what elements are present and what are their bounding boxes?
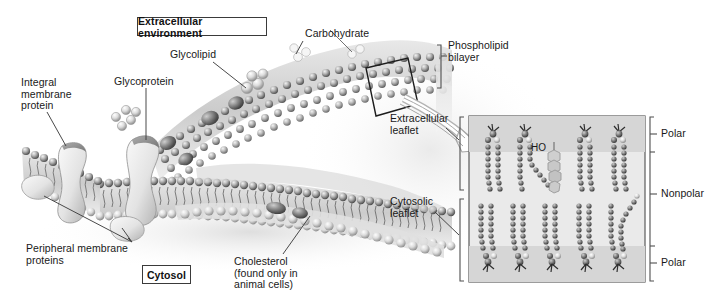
glycolipid-label: Glycolipid (170, 49, 216, 61)
cell-membrane-figure: Extracellular environment Cytosol Integr… (0, 0, 712, 306)
cholesterol-label: Cholesterol (found only in animal cells) (234, 256, 298, 291)
glycoprotein-label: Glycoprotein (114, 76, 174, 88)
cytosol-box: Cytosol (142, 265, 191, 284)
integral-membrane-protein-label: Integral membrane protein (21, 77, 72, 112)
cytosolic-leaflet-label: Cytosolic leaflet (390, 196, 433, 219)
nonpolar-label: Nonpolar (661, 188, 704, 200)
phospholipid-bilayer-label: Phospholipid bilayer (448, 40, 509, 63)
polarity-bracket (650, 117, 657, 281)
hydroxyl-label: HO (531, 142, 546, 154)
extracellular-leaflet-label: Extracellular leaflet (390, 113, 448, 136)
polar-top-label: Polar (661, 128, 686, 140)
phospholipid-bilayer-inset (469, 116, 645, 282)
carbohydrate-label: Carbohydrate (305, 28, 369, 40)
polar-bottom-label: Polar (661, 257, 686, 269)
peripheral-membrane-proteins-label: Peripheral membrane proteins (26, 243, 128, 266)
extracellular-environment-box: Extracellular environment (137, 17, 267, 36)
